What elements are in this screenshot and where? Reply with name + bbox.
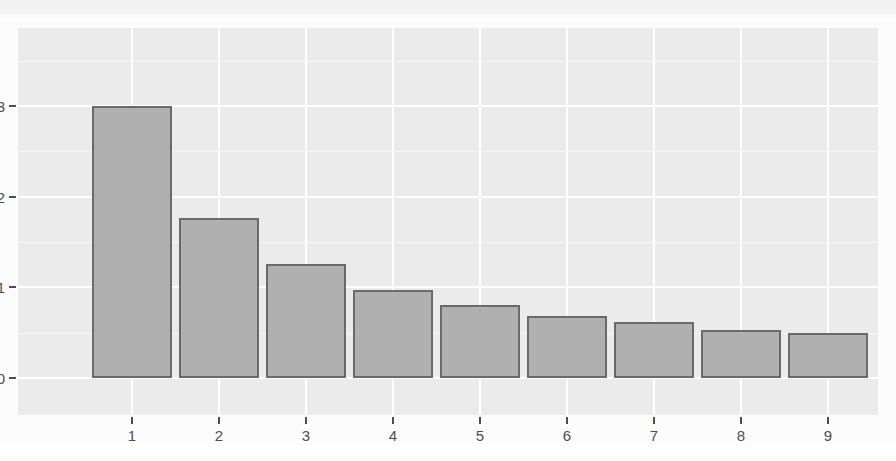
bottom-margin: [0, 446, 896, 461]
plot-panel: [18, 28, 878, 415]
bar: [527, 316, 607, 378]
chart-figure: 0.00.10.20.3123456789: [0, 0, 896, 461]
bar: [179, 218, 259, 378]
bar: [701, 330, 781, 378]
bar: [353, 290, 433, 378]
bar: [266, 264, 346, 378]
gridline-horizontal-minor: [18, 61, 878, 62]
bar: [440, 305, 520, 378]
top-edge-band: [0, 0, 896, 14]
bar: [788, 333, 868, 378]
plot-device-area: [0, 18, 896, 446]
bar: [92, 106, 172, 378]
bar: [614, 322, 694, 378]
